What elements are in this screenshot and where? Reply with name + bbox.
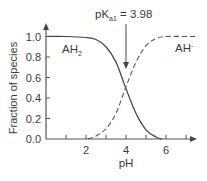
- y-tick-label: 0.0: [26, 133, 41, 145]
- ah2-label: AH2: [62, 43, 82, 57]
- y-tick-label: 1.0: [26, 31, 41, 43]
- x-axis-arrow-icon: [190, 136, 197, 142]
- x-tick-label: 4: [123, 144, 129, 156]
- x-tick-label: 6: [163, 144, 169, 156]
- ah-minus-label: AH-: [175, 42, 194, 54]
- y-tick-label: 0.8: [26, 51, 41, 63]
- x-tick-label: 2: [83, 144, 89, 156]
- x-ticks: 246: [66, 135, 186, 156]
- x-axis-label: pH: [119, 157, 134, 169]
- y-axis-arrow-icon: [43, 23, 49, 30]
- y-tick-label: 0.4: [26, 92, 41, 104]
- species-fraction-chart: 0.00.20.40.60.81.0 246 pKa1 = 3.98 AH2 A…: [0, 0, 207, 181]
- y-tick-label: 0.6: [26, 72, 41, 84]
- y-axis-label: Fraction of species: [7, 41, 19, 134]
- y-tick-label: 0.2: [26, 113, 41, 125]
- pka-annotation: pKa1 = 3.98: [95, 8, 152, 22]
- pka-arrowhead-icon: [123, 62, 129, 69]
